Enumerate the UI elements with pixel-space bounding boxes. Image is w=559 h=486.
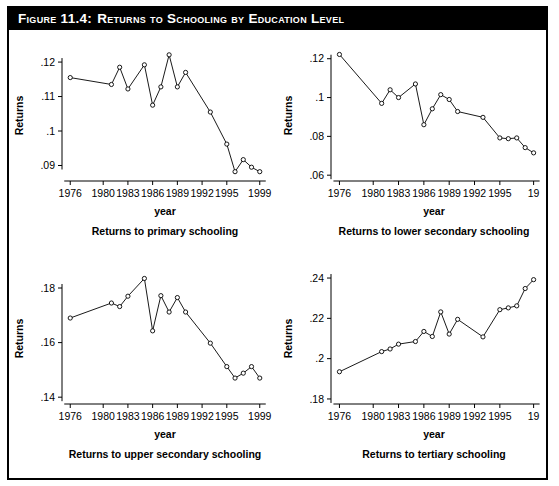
y-tick-label: .18 [309,393,324,405]
x-tick-label: 1995 [488,187,512,199]
series-line [70,278,260,378]
y-tick-label: .2 [315,352,324,364]
data-point-marker [388,88,392,92]
data-point-marker [421,329,425,333]
x-tick-label: 1983 [116,187,140,199]
x-tick-label: 19 [527,410,539,422]
x-tick-label: 1976 [59,410,83,422]
data-point-marker [455,109,459,113]
data-point-marker [497,136,501,140]
panel-caption: Returns to upper secondary schooling [69,448,262,460]
data-point-marker [480,335,484,339]
data-point-marker [480,115,484,119]
x-tick-label: 1995 [488,410,512,422]
data-point-marker [523,286,527,290]
data-point-marker [258,170,262,174]
x-tick-label: 1992 [462,410,486,422]
data-point-marker [159,294,163,298]
panel-grid: .09.1.11.1219761980198319861989199219951… [9,32,546,478]
data-point-marker [523,146,527,150]
x-tick-label: 1992 [462,187,486,199]
data-point-marker [337,52,341,56]
data-point-marker [337,370,341,374]
data-point-marker [388,347,392,351]
x-tick-label: 1980 [92,410,116,422]
data-point-marker [447,97,451,101]
data-point-marker [167,310,171,314]
data-point-marker [447,332,451,336]
plot-tertiary: .18.2.22.2419761980198319861989199219951… [278,255,547,478]
series-line [70,55,260,172]
x-tick-label: 1980 [92,187,116,199]
data-point-marker [184,310,188,314]
data-point-marker [208,341,212,345]
data-point-marker [167,53,171,57]
data-point-marker [430,107,434,111]
series-line [339,54,533,152]
x-tick-label: 1989 [166,410,190,422]
data-point-marker [208,110,212,114]
x-tick-label: 1986 [412,410,436,422]
y-tick-label: .24 [309,272,324,284]
y-tick-label: .1 [315,91,324,103]
x-tick-label: 1980 [361,187,385,199]
data-point-marker [126,87,130,91]
data-point-marker [514,136,518,140]
x-tick-label: 1976 [59,187,83,199]
data-point-marker [497,308,501,312]
panel-primary-schooling: .09.1.11.1219761980198319861989199219951… [9,32,278,255]
y-tick-label: .06 [309,169,324,181]
data-point-marker [175,295,179,299]
data-point-marker [258,376,262,380]
data-point-marker [109,301,113,305]
panel-caption: Returns to primary schooling [92,225,238,237]
data-point-marker [396,342,400,346]
y-tick-label: .12 [40,56,55,68]
data-point-marker [109,82,113,86]
data-point-marker [396,95,400,99]
x-tick-label: 1983 [386,187,410,199]
y-axis-title: Returns [282,319,294,359]
x-axis-title: year [423,428,445,440]
figure-title: Returns to Schooling by Education Level [97,11,344,26]
data-point-marker [142,276,146,280]
data-point-marker [438,310,442,314]
data-point-marker [531,278,535,282]
x-tick-label: 19 [527,187,539,199]
data-point-marker [249,165,253,169]
x-tick-label: 1983 [386,410,410,422]
x-tick-label: 1989 [166,187,190,199]
x-tick-label: 1976 [327,187,351,199]
data-point-marker [514,304,518,308]
panel-lower-secondary-schooling: .06.08.1.1219761980198319861989199219951… [278,32,547,255]
figure-caption-bar: Figure 11.4:Returns to Schooling by Educ… [7,6,548,30]
x-axis-title: year [154,428,176,440]
y-tick-label: .09 [40,159,55,171]
x-tick-label: 1995 [215,187,239,199]
data-point-marker [151,329,155,333]
data-point-marker [184,70,188,74]
y-tick-label: .08 [309,130,324,142]
data-point-marker [241,371,245,375]
data-point-marker [118,65,122,69]
data-point-marker [506,306,510,310]
y-axis-title: Returns [282,96,294,136]
x-tick-label: 1992 [190,410,214,422]
data-point-marker [379,101,383,105]
y-tick-label: .11 [41,90,55,102]
panel-tertiary-schooling: .18.2.22.2419761980198319861989199219951… [278,255,547,478]
x-axis-title: year [423,205,445,217]
series-line [339,280,533,372]
figure-caption-text: Figure 11.4:Returns to Schooling by Educ… [18,11,344,26]
data-point-marker [233,376,237,380]
data-point-marker [142,63,146,67]
data-point-marker [413,82,417,86]
data-point-marker [233,170,237,174]
y-tick-label: .12 [309,52,324,64]
y-tick-label: .22 [309,312,324,324]
data-point-marker [151,103,155,107]
data-point-marker [175,85,179,89]
data-point-marker [413,339,417,343]
data-point-marker [225,365,229,369]
y-axis-title: Returns [13,319,25,359]
